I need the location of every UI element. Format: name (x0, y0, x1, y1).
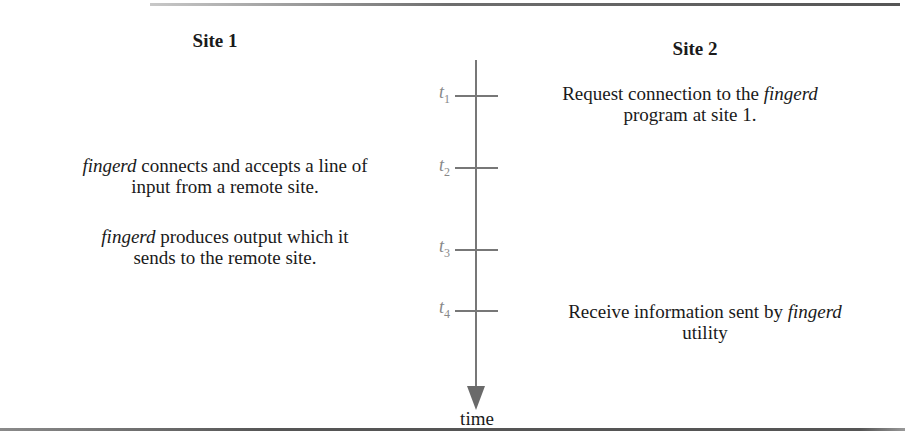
event-t1-line1: Request connection to the fingerd (520, 83, 860, 104)
event-t2-line1: fingerd connects and accepts a line of (35, 155, 415, 176)
time-axis-line (475, 60, 477, 392)
bottom-rule (0, 428, 905, 431)
tick-t3 (455, 249, 498, 251)
event-t3-line1: fingerd produces output which it (55, 226, 395, 247)
event-t2-site1: fingerd connects and accepts a line of i… (35, 155, 415, 197)
event-t1-line2: program at site 1. (520, 104, 860, 125)
site-1-heading: Site 1 (150, 30, 280, 52)
tick-label-t2: t2 (430, 155, 450, 180)
event-t3-line2: sends to the remote site. (55, 247, 395, 268)
tick-label-t3: t3 (430, 236, 450, 261)
event-t1-site2: Request connection to the fingerd progra… (520, 83, 860, 125)
arrow-down-icon (467, 386, 485, 410)
tick-t1 (455, 95, 498, 97)
tick-label-t4: t4 (430, 297, 450, 322)
tick-label-t1: t1 (430, 82, 450, 107)
top-rule (150, 3, 900, 6)
event-t3-site1: fingerd produces output which it sends t… (55, 226, 395, 268)
time-axis-label: time (452, 408, 502, 430)
tick-t2 (455, 167, 498, 169)
event-t4-site2: Receive information sent by fingerd util… (515, 301, 895, 343)
tick-t4 (455, 310, 498, 312)
event-t4-line1: Receive information sent by fingerd (515, 301, 895, 322)
event-t4-line2: utility (515, 322, 895, 343)
site-2-heading: Site 2 (630, 38, 760, 60)
event-t2-line2: input from a remote site. (35, 176, 415, 197)
